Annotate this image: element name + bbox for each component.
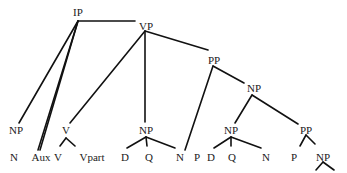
node-np-mid: NP: [247, 83, 261, 94]
tree-edge: [145, 31, 208, 50]
tree-edge: [316, 162, 323, 170]
leaf-p-2: P: [291, 152, 297, 163]
tree-edge: [323, 162, 334, 170]
leaf-v: V: [54, 152, 62, 163]
tree-edge: [146, 137, 147, 146]
tree-edge: [60, 138, 66, 146]
tree-edge: [185, 66, 213, 150]
leaf-n-3: N: [262, 152, 270, 163]
node-np-inner: NP: [224, 125, 238, 136]
node-np-subject: NP: [9, 125, 23, 136]
leaf-p-1: P: [194, 152, 200, 163]
tree-edge: [235, 95, 252, 123]
syntax-tree-diagram: [0, 0, 347, 173]
tree-edge: [213, 66, 244, 83]
tree-edge: [214, 137, 231, 148]
tree-edge: [231, 137, 261, 148]
tree-edge: [70, 31, 145, 123]
leaf-np-last: NP: [316, 152, 330, 163]
tree-edge: [19, 21, 78, 123]
tree-edge: [252, 95, 298, 124]
tree-edge: [306, 135, 315, 144]
leaf-aux: Aux: [32, 152, 51, 163]
leaf-q-1: Q: [145, 152, 153, 163]
tree-edge: [146, 137, 175, 148]
tree-edge: [127, 137, 146, 148]
leaf-vpart: Vpart: [79, 152, 104, 163]
leaf-d-2: D: [207, 152, 215, 163]
tree-edge: [300, 135, 306, 146]
leaf-n-2: N: [176, 152, 184, 163]
node-pp-inner: PP: [300, 125, 312, 136]
leaf-d-1: D: [121, 152, 129, 163]
tree-edge: [38, 21, 78, 150]
node-pp-top: PP: [208, 55, 220, 66]
leaf-n-1: N: [10, 152, 18, 163]
node-vp: VP: [139, 21, 153, 32]
node-np-object: NP: [139, 125, 153, 136]
node-v-complex: V: [62, 125, 70, 136]
node-ip: IP: [73, 7, 83, 18]
leaf-q-2: Q: [228, 152, 236, 163]
tree-edge: [66, 138, 75, 146]
